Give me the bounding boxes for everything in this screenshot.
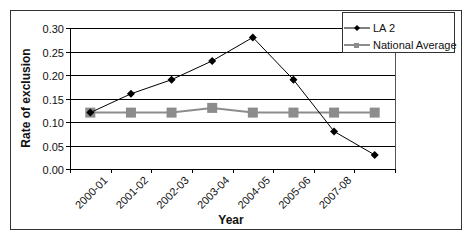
legend: LA 2National Average bbox=[343, 13, 457, 53]
square-marker bbox=[126, 108, 136, 118]
y-tick-label: 0.05 bbox=[43, 141, 64, 153]
square-marker bbox=[288, 108, 298, 118]
y-tick-label: 0.00 bbox=[43, 164, 64, 176]
y-tick-label: 0.25 bbox=[43, 47, 64, 59]
legend-label: LA 2 bbox=[373, 22, 395, 34]
y-tick-label: 0.30 bbox=[43, 23, 64, 35]
square-marker bbox=[248, 108, 258, 118]
square-marker bbox=[207, 103, 217, 113]
legend-label: National Average bbox=[373, 39, 457, 51]
line-chart: 0.000.050.100.150.200.250.30 2000-012001… bbox=[0, 0, 466, 240]
square-marker bbox=[167, 108, 177, 118]
square-marker bbox=[370, 108, 380, 118]
y-tick-label: 0.20 bbox=[43, 70, 64, 82]
y-tick-label: 0.15 bbox=[43, 94, 64, 106]
square-marker bbox=[329, 108, 339, 118]
square-marker-icon bbox=[354, 43, 359, 48]
y-tick-label: 0.10 bbox=[43, 117, 64, 129]
x-axis-label: Year bbox=[218, 213, 244, 227]
y-axis-label: Rate of exclusion bbox=[19, 48, 33, 147]
